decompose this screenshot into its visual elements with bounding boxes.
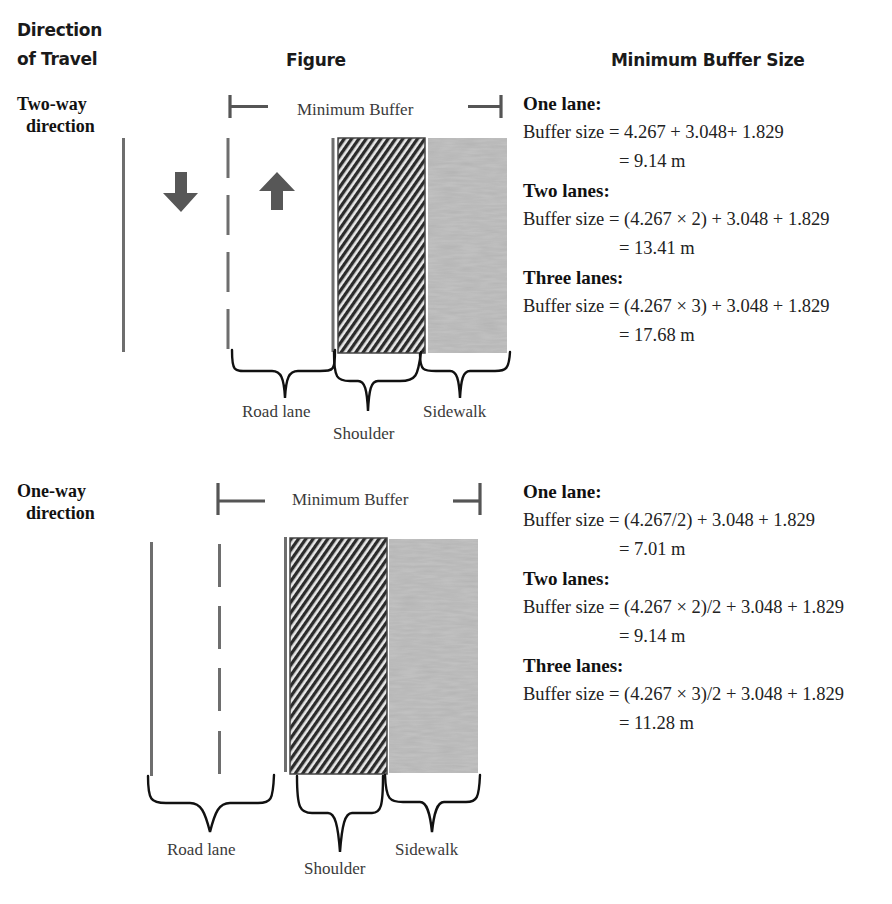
formula-prefix: Buffer size — [523, 510, 604, 530]
formula-title: Two lanes: — [523, 568, 844, 597]
formula-prefix: Buffer size — [523, 122, 604, 142]
formula-expression: Buffer size = (4.267 × 2) + 3.048 + 1.82… — [523, 209, 830, 238]
formula-result: = 13.41 m — [523, 238, 830, 267]
header-direction-line1: Direction — [17, 20, 102, 41]
formula-title: Three lanes: — [523, 267, 830, 296]
brace-sidewalk — [385, 775, 480, 832]
one-way-left-edge-line — [150, 542, 153, 776]
two-way-figure — [122, 95, 510, 411]
formula-result: = 11.28 m — [523, 713, 844, 742]
formula-expression: Buffer size = (4.267 × 3)/2 + 3.048 + 1.… — [523, 684, 844, 713]
header-figure: Figure — [286, 50, 346, 71]
one-way-shoulder-block — [290, 538, 387, 774]
formula-result: = 9.14 m — [523, 626, 844, 655]
two-way-shoulder-block — [338, 138, 425, 353]
header-direction-line2: of Travel — [17, 49, 102, 70]
formula-prefix: Buffer size — [523, 209, 604, 229]
formula-result: = 9.14 m — [523, 151, 830, 180]
formula-expression: Buffer size = 4.267 + 3.048+ 1.829 — [523, 122, 830, 151]
formula-expr: = (4.267/2) + 3.048 + 1.829 — [609, 510, 815, 530]
formula-expression: Buffer size = (4.267/2) + 3.048 + 1.829 — [523, 510, 844, 539]
formula-prefix: Buffer size — [523, 296, 604, 316]
brace-sidewalk — [420, 352, 510, 398]
formula-title: Two lanes: — [523, 180, 830, 209]
two-way-min-buffer-label: Minimum Buffer — [297, 100, 413, 120]
formula-title: One lane: — [523, 481, 844, 510]
formula-expression: Buffer size = (4.267 × 2)/2 + 3.048 + 1.… — [523, 597, 844, 626]
one-way-figure — [148, 483, 480, 852]
brace-road-lane — [148, 775, 274, 832]
one-way-label-line1: One-way — [17, 480, 95, 502]
one-way-road-edge-line — [284, 537, 287, 772]
two-way-shoulder-label: Shoulder — [333, 424, 394, 444]
formula-expr: = (4.267 × 3) + 3.048 + 1.829 — [609, 296, 830, 316]
two-way-road-lane-label: Road lane — [242, 402, 310, 422]
formula-expr: = 4.267 + 3.048+ 1.829 — [609, 122, 784, 142]
formula-expr: = (4.267 × 2)/2 + 3.048 + 1.829 — [609, 597, 844, 617]
formula-title: One lane: — [523, 93, 830, 122]
one-way-formulas: One lane: Buffer size = (4.267/2) + 3.04… — [523, 481, 844, 742]
formula-expression: Buffer size = (4.267 × 3) + 3.048 + 1.82… — [523, 296, 830, 325]
two-way-formula-three-lanes: Three lanes: Buffer size = (4.267 × 3) +… — [523, 267, 830, 354]
brace-shoulder — [334, 352, 421, 411]
one-way-center-dashed-line — [218, 544, 221, 774]
two-way-label-line2: direction — [26, 115, 95, 137]
two-way-formulas: One lane: Buffer size = 4.267 + 3.048+ 1… — [523, 93, 830, 354]
two-way-label-line1: Two-way — [17, 93, 95, 115]
one-way-label-line2: direction — [26, 502, 95, 524]
one-way-sidewalk-label: Sidewalk — [395, 840, 458, 860]
one-way-shoulder-label: Shoulder — [304, 859, 365, 879]
header-minimum-buffer-size: Minimum Buffer Size — [611, 50, 805, 71]
formula-result: = 7.01 m — [523, 539, 844, 568]
brace-shoulder — [297, 776, 383, 852]
arrow-up-icon — [259, 172, 295, 210]
formula-expr: = (4.267 × 2) + 3.048 + 1.829 — [609, 209, 830, 229]
formula-result: = 17.68 m — [523, 325, 830, 354]
two-way-road-edge-line — [332, 138, 335, 352]
two-way-formula-two-lanes: Two lanes: Buffer size = (4.267 × 2) + 3… — [523, 180, 830, 267]
two-way-sidewalk-block — [428, 138, 507, 353]
two-way-center-dashed-line — [227, 138, 230, 349]
formula-expr: = (4.267 × 3)/2 + 3.048 + 1.829 — [609, 684, 844, 704]
two-way-direction-label: Two-way direction — [17, 93, 95, 137]
formula-prefix: Buffer size — [523, 684, 604, 704]
formula-prefix: Buffer size — [523, 597, 604, 617]
header-direction-of-travel: Direction of Travel — [17, 20, 102, 70]
one-way-formula-one-lane: One lane: Buffer size = (4.267/2) + 3.04… — [523, 481, 844, 568]
one-way-formula-two-lanes: Two lanes: Buffer size = (4.267 × 2)/2 +… — [523, 568, 844, 655]
two-way-left-edge-line — [122, 138, 125, 352]
one-way-min-buffer-label: Minimum Buffer — [292, 490, 408, 510]
one-way-road-lane-label: Road lane — [167, 840, 235, 860]
arrow-down-icon — [163, 172, 198, 212]
one-way-sidewalk-block — [389, 539, 478, 773]
one-way-formula-three-lanes: Three lanes: Buffer size = (4.267 × 3)/2… — [523, 655, 844, 742]
formula-title: Three lanes: — [523, 655, 844, 684]
two-way-sidewalk-label: Sidewalk — [423, 402, 486, 422]
brace-road-lane — [232, 350, 335, 398]
two-way-formula-one-lane: One lane: Buffer size = 4.267 + 3.048+ 1… — [523, 93, 830, 180]
one-way-direction-label: One-way direction — [17, 480, 95, 524]
